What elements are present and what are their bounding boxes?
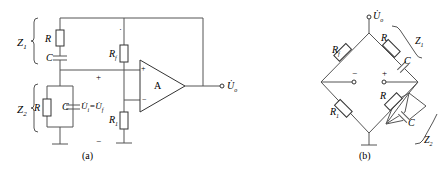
brace-z1 — [31, 18, 38, 64]
label-voltage-equation: U̇i=U̇f — [81, 101, 103, 113]
output-terminal-b — [367, 15, 371, 19]
label-r-parallel: R — [34, 102, 40, 113]
label-opamp: A — [154, 80, 161, 91]
label-r-top-b: R — [381, 32, 387, 43]
circuit-diagram — [0, 0, 447, 174]
label-opamp-plus: + — [141, 64, 146, 73]
label-c-series: C — [46, 52, 53, 63]
label-plus-a: + — [96, 72, 101, 82]
resistor-r-series — [56, 30, 64, 46]
label-output-b: U̇o — [373, 10, 383, 23]
label-r-series: R — [45, 33, 51, 44]
caption-b: (b) — [359, 150, 371, 161]
resistor-r-parallel — [43, 99, 51, 116]
label-rf-a: Rf — [109, 48, 117, 61]
label-r1-b: R1 — [330, 106, 339, 119]
label-c-bottom-b: C — [408, 117, 415, 128]
label-minus-b: − — [352, 68, 357, 78]
plus-terminal-b — [382, 80, 386, 84]
label-opamp-minus: − — [142, 95, 147, 104]
label-minus-a: − — [96, 136, 101, 146]
label-c-parallel: C — [62, 101, 69, 112]
resistor-r1 — [120, 112, 128, 129]
label-plus-b: + — [382, 68, 387, 78]
resistor-r-bottom-b — [385, 93, 403, 111]
label-r-bottom-b: R — [380, 90, 386, 101]
opamp — [140, 60, 185, 112]
resistor-rf — [120, 45, 128, 62]
label-output-a: U̇o — [227, 80, 237, 93]
minus-terminal-b — [352, 80, 356, 84]
label-z2-b: Z2 — [424, 134, 433, 147]
label-z2-a: Z2 — [17, 103, 27, 118]
label-r1-a: R1 — [109, 114, 118, 127]
label-dot-a: · — [119, 24, 122, 34]
label-z1-a: Z1 — [17, 36, 27, 51]
output-terminal-a — [220, 84, 224, 88]
label-rf-b: Rf — [332, 44, 340, 57]
figure-a — [31, 18, 224, 144]
label-z1-b: Z1 — [415, 35, 424, 48]
label-c-top-b: C — [404, 55, 411, 66]
caption-a: (a) — [82, 150, 93, 161]
